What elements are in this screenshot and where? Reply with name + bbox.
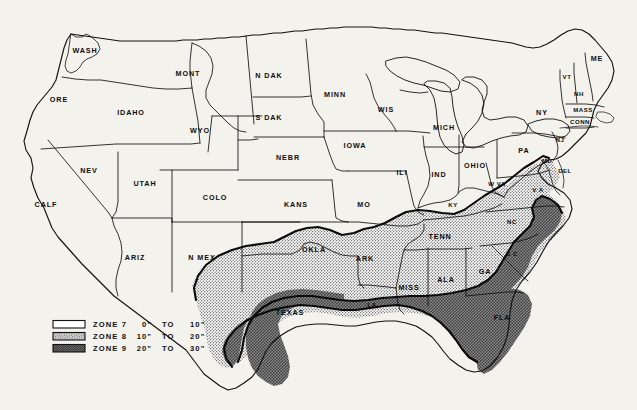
us-zone-map-svg: WASHOREIDAHOMONTWYON DAKS DAKMINNWISMICH… [0, 0, 637, 410]
legend-label-zone8: ZONE 8 [93, 332, 127, 341]
legend-high-zone7: 10" [190, 320, 205, 329]
legend-label-zone9: ZONE 9 [93, 344, 127, 353]
legend-to-zone7: TO [162, 320, 175, 329]
legend-swatch-zone7 [53, 321, 85, 329]
legend-low-zone9: 20" [137, 344, 152, 353]
legend-to-zone9: TO [162, 344, 175, 353]
legend-high-zone8: 20" [190, 332, 205, 341]
legend-to-zone8: TO [162, 332, 175, 341]
legend-swatch-zone9 [53, 345, 85, 353]
legend-swatch-zone8 [53, 333, 85, 341]
legend-low-zone7: 0" [142, 320, 152, 329]
legend-label-zone7: ZONE 7 [93, 320, 127, 329]
legend-high-zone9: 30" [190, 344, 205, 353]
map-figure: WASHOREIDAHOMONTWYON DAKS DAKMINNWISMICH… [0, 0, 637, 410]
legend-low-zone8: 10" [137, 332, 152, 341]
